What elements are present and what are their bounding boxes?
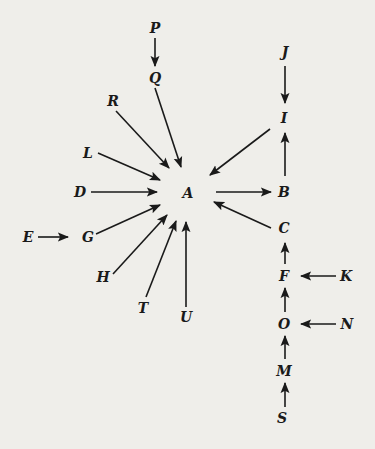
node-h: H (96, 270, 109, 284)
arrow-c-to-a (214, 202, 271, 228)
arrow-r-to-a (116, 111, 169, 168)
node-a: A (183, 186, 194, 200)
node-g: G (82, 230, 94, 244)
directed-graph-diagram: PQJIRLDABCEGHTUFKONMS (0, 0, 375, 449)
node-u: U (180, 310, 192, 324)
node-b: B (278, 185, 290, 199)
node-t: T (138, 301, 148, 315)
node-s: S (277, 411, 287, 425)
node-k: K (340, 269, 352, 283)
arrow-g-to-a (96, 205, 160, 234)
node-r: R (107, 94, 119, 108)
node-q: Q (149, 71, 161, 85)
arrow-i-to-a (210, 129, 270, 175)
node-p: P (150, 21, 161, 35)
node-o: O (278, 317, 290, 331)
node-c: C (278, 221, 289, 235)
edge-layer (0, 0, 375, 449)
node-e: E (23, 230, 34, 244)
node-j: J (282, 45, 289, 59)
node-d: D (74, 185, 86, 199)
node-n: N (341, 317, 354, 331)
node-f: F (279, 269, 289, 283)
node-i: I (281, 111, 288, 125)
arrow-q-to-a (155, 88, 181, 167)
node-l: L (83, 146, 93, 160)
node-m: M (276, 364, 292, 378)
arrow-l-to-a (98, 153, 160, 180)
